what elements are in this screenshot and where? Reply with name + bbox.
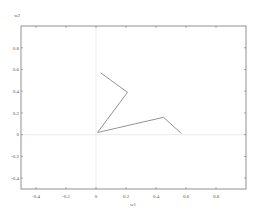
x-tick-label: 0.8	[213, 194, 220, 199]
line-chart: -0.4-0.200.20.40.60.8-0.4-0.200.20.40.60…	[0, 0, 260, 214]
axis-ticks: -0.4-0.200.20.40.60.8-0.4-0.200.20.40.60…	[11, 26, 246, 199]
y-tick-label: 0.8	[13, 46, 20, 51]
y-tick-label: 0.2	[13, 111, 20, 116]
data-line	[98, 73, 182, 134]
y-tick-label: -0.2	[11, 154, 19, 159]
x-tick-label: -0.2	[62, 194, 70, 199]
x-tick-label: -0.4	[32, 194, 40, 199]
y-tick-label: 0.6	[13, 67, 20, 72]
y-tick-label: -0.4	[11, 176, 19, 181]
x-axis-label: w1	[130, 202, 137, 207]
y-tick-label: 0.4	[13, 89, 20, 94]
x-tick-label: 0.2	[123, 194, 130, 199]
x-tick-label: 0.4	[153, 194, 160, 199]
zero-lines	[21, 26, 246, 189]
y-axis-label: w2	[14, 13, 21, 18]
y-tick-label: 0	[17, 132, 20, 137]
x-tick-label: 0.6	[183, 194, 190, 199]
x-tick-label: 0	[95, 194, 98, 199]
plot-frame	[21, 26, 246, 189]
